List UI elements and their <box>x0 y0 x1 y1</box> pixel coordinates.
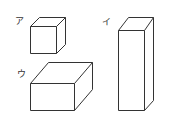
prism-u <box>31 63 93 111</box>
prism-i <box>119 18 154 111</box>
cube-a <box>31 18 66 54</box>
shapes-figure <box>0 0 170 119</box>
